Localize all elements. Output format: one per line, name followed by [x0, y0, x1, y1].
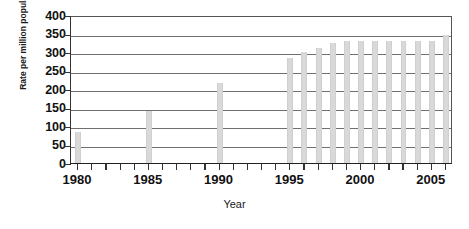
y-axis-tick-mark	[64, 146, 71, 147]
x-axis-tick-mark	[388, 164, 389, 170]
bar-chart: Rate per million population 050100150200…	[0, 0, 469, 229]
y-axis-tick-label: 150	[32, 102, 66, 115]
gridline	[71, 110, 451, 111]
x-axis-tick-mark	[261, 164, 262, 170]
x-axis-tick-mark	[233, 164, 234, 170]
x-axis-tick-label: 1985	[133, 172, 162, 187]
x-axis-tick-mark	[289, 164, 290, 170]
y-axis-tick-mark	[64, 109, 71, 110]
bar	[358, 41, 364, 163]
x-axis-tick-label: 1980	[63, 172, 92, 187]
gridline	[71, 147, 451, 148]
y-axis-tick-labels: 050100150200250300350400	[26, 0, 66, 229]
bar	[217, 83, 223, 163]
x-axis-tick-mark	[134, 164, 135, 170]
x-axis-tick-mark	[91, 164, 92, 170]
x-axis-tick-mark	[360, 164, 361, 170]
bar	[415, 41, 421, 163]
plot-area	[70, 16, 452, 164]
bar	[344, 41, 350, 163]
y-axis-tick-mark	[64, 16, 71, 17]
x-axis-tick-label: 1990	[204, 172, 233, 187]
y-axis-tick-mark	[64, 53, 71, 54]
x-axis-title: Year	[0, 198, 469, 210]
y-axis-tick-label: 50	[32, 139, 66, 152]
x-axis-tick-label: 2000	[346, 172, 375, 187]
gridline	[71, 91, 451, 92]
bar	[443, 35, 449, 163]
x-axis-tick-mark	[332, 164, 333, 170]
x-axis-tick-label: 1995	[275, 172, 304, 187]
y-axis-tick-label: 100	[32, 121, 66, 134]
y-axis-tick-mark	[64, 90, 71, 91]
bar	[330, 43, 336, 163]
gridline	[71, 54, 451, 55]
x-axis-tick-mark	[105, 164, 106, 170]
x-axis-tick-label: 2005	[416, 172, 445, 187]
bar	[401, 41, 407, 163]
x-axis-tick-mark	[247, 164, 248, 170]
bar	[301, 52, 307, 163]
y-axis-tick-mark	[64, 164, 71, 165]
bar	[146, 111, 152, 163]
x-axis-tick-mark	[402, 164, 403, 170]
x-axis-tick-mark	[77, 164, 78, 170]
bar	[372, 41, 378, 163]
x-axis-tick-mark	[219, 164, 220, 170]
bar	[386, 41, 392, 163]
y-axis-tick-mark	[64, 35, 71, 36]
bar	[316, 48, 322, 163]
y-axis-tick-label: 350	[32, 28, 66, 41]
y-axis-tick-label: 0	[32, 158, 66, 171]
y-axis-tick-mark	[64, 72, 71, 73]
x-axis-tick-mark	[190, 164, 191, 170]
x-axis-tick-mark	[346, 164, 347, 170]
x-axis-tick-mark	[303, 164, 304, 170]
x-axis-tick-mark	[204, 164, 205, 170]
y-axis-tick-label: 250	[32, 65, 66, 78]
x-axis-tick-mark	[275, 164, 276, 170]
bar	[75, 132, 81, 163]
y-axis-tick-label: 200	[32, 84, 66, 97]
x-axis-tick-mark	[417, 164, 418, 170]
x-axis-tick-mark	[162, 164, 163, 170]
y-axis-tick-mark	[64, 127, 71, 128]
gridline	[71, 128, 451, 129]
x-axis-tick-mark	[120, 164, 121, 170]
x-axis-tick-mark	[148, 164, 149, 170]
bar	[287, 58, 293, 163]
x-axis-tick-mark	[318, 164, 319, 170]
bar	[429, 41, 435, 163]
x-axis-tick-mark	[445, 164, 446, 170]
x-axis-tick-mark	[374, 164, 375, 170]
gridline	[71, 36, 451, 37]
y-axis-tick-label: 300	[32, 47, 66, 60]
x-axis-tick-mark	[431, 164, 432, 170]
y-axis-tick-label: 400	[32, 10, 66, 23]
gridline	[71, 73, 451, 74]
x-axis-tick-mark	[176, 164, 177, 170]
